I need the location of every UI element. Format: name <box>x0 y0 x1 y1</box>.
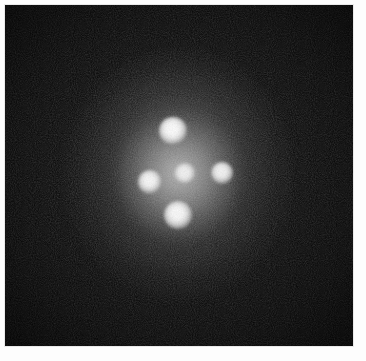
quasar-image-left-source <box>138 170 162 194</box>
quasar-image-bottom-source <box>164 201 192 229</box>
quasar-image-top-source <box>159 117 187 145</box>
figure-page <box>0 0 366 361</box>
lens-galaxy-nucleus-source <box>174 163 196 185</box>
quasar-image-right-source <box>211 162 233 184</box>
astronomical-image-plate <box>5 5 353 346</box>
